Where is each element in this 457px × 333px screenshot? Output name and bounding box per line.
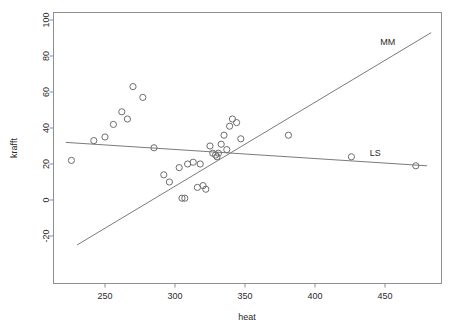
y-axis-title: krafft xyxy=(9,138,19,158)
y-tick-label: 100 xyxy=(41,12,51,27)
line-label-ls: LS xyxy=(370,148,381,158)
y-tick-label: 20 xyxy=(41,159,51,169)
y-tick-label: -20 xyxy=(41,229,51,242)
x-tick-label: 300 xyxy=(167,291,182,301)
y-tick-label: 60 xyxy=(41,87,51,97)
plot-canvas: -20020406080100 250300350400450 MMLS hea… xyxy=(0,0,457,333)
x-tick-label: 450 xyxy=(377,291,392,301)
y-tick-label: 0 xyxy=(41,197,51,202)
x-tick-label: 350 xyxy=(237,291,252,301)
line-label-mm: MM xyxy=(380,37,395,47)
x-axis-title: heat xyxy=(238,312,256,322)
x-tick-label: 250 xyxy=(97,291,112,301)
scatter-plot-figure: -20020406080100 250300350400450 MMLS hea… xyxy=(0,0,457,333)
y-tick-label: 40 xyxy=(41,123,51,133)
y-tick-label: 80 xyxy=(41,51,51,61)
x-tick-label: 400 xyxy=(307,291,322,301)
